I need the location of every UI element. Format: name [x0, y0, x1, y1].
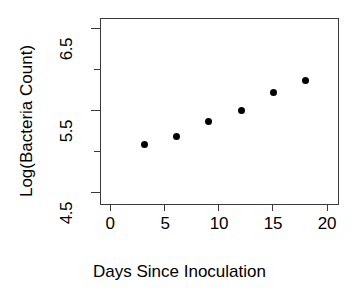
y-tick-label-5.5: 5.5 [57, 120, 77, 142]
data-point [270, 89, 277, 96]
scatter-plot-figure: 6.5 5.5 4.5 0 5 10 15 20 Log(Bacteria Co… [0, 0, 359, 306]
data-point [173, 133, 180, 140]
data-point [205, 118, 212, 125]
data-point [302, 77, 309, 84]
x-tick-10 [218, 205, 219, 211]
y-axis-title: Log(Bacteria Count) [17, 21, 37, 221]
y-tick-label-4.5: 4.5 [57, 202, 77, 224]
data-point [141, 141, 148, 148]
data-point [238, 107, 245, 114]
x-tick-20 [327, 205, 328, 211]
x-tick-label-20: 20 [318, 214, 336, 234]
x-tick-0 [110, 205, 111, 211]
x-tick-label-10: 10 [210, 214, 228, 234]
plot-area [100, 18, 339, 205]
x-tick-label-5: 5 [160, 214, 169, 234]
x-tick-15 [272, 205, 273, 211]
y-tick-major-4.5 [91, 192, 100, 193]
x-tick-label-0: 0 [105, 214, 114, 234]
x-axis-title: Days Since Inoculation [0, 262, 359, 282]
x-tick-label-15: 15 [264, 214, 282, 234]
y-tick-major-6.5 [91, 28, 100, 29]
y-tick-major-5.5 [91, 110, 100, 111]
x-tick-5 [164, 205, 165, 211]
y-tick-label-6.5: 6.5 [57, 38, 77, 60]
